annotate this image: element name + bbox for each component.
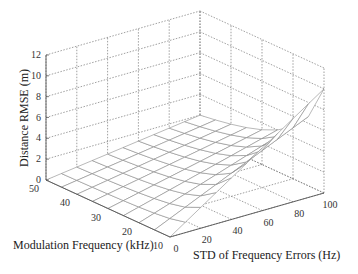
svg-text:40: 40 <box>60 197 70 208</box>
svg-text:8: 8 <box>36 91 41 102</box>
svg-text:10: 10 <box>153 240 163 251</box>
svg-text:80: 80 <box>294 208 304 219</box>
svg-text:60: 60 <box>263 217 273 228</box>
svg-text:4: 4 <box>36 132 41 143</box>
svg-text:20: 20 <box>122 226 132 237</box>
svg-text:50: 50 <box>29 183 39 194</box>
svg-text:20: 20 <box>202 234 212 245</box>
z-axis-label: Distance RMSE (m) <box>17 69 31 167</box>
y-axis-label: Modulation Frequency (kHz) <box>13 238 154 252</box>
surface-plot: 0246810121020304050020406080100 Distance… <box>0 0 358 274</box>
x-axis-label: STD of Frequency Errors (Hz) <box>193 248 340 262</box>
svg-text:6: 6 <box>36 112 41 123</box>
svg-text:40: 40 <box>233 225 243 236</box>
svg-text:10: 10 <box>31 70 41 81</box>
svg-text:12: 12 <box>31 49 41 60</box>
svg-text:0: 0 <box>174 243 179 254</box>
svg-text:30: 30 <box>91 212 101 223</box>
svg-text:2: 2 <box>36 153 41 164</box>
svg-text:100: 100 <box>323 199 338 210</box>
